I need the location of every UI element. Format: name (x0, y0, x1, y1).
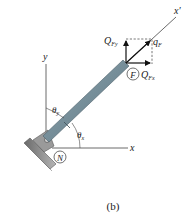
theta-x-label: θx (77, 130, 84, 141)
point-N-label: N (56, 153, 64, 163)
rod-member (43, 60, 129, 142)
figure-caption: (b) (107, 200, 120, 213)
x-prime-axis-label: x′ (173, 5, 181, 16)
free-body-diagram: x′ y x θy θx qF QFy QFx F N (0, 0, 190, 221)
QFx-label: QFx (141, 69, 155, 81)
theta-y-label: θy (52, 105, 59, 116)
qF-label: qF (153, 36, 162, 48)
point-F-label: F (129, 70, 136, 80)
y-axis-label: y (42, 51, 48, 62)
QFy-label: QFy (104, 35, 118, 47)
x-axis-label: x (129, 142, 135, 153)
qF-arrow (126, 41, 150, 63)
